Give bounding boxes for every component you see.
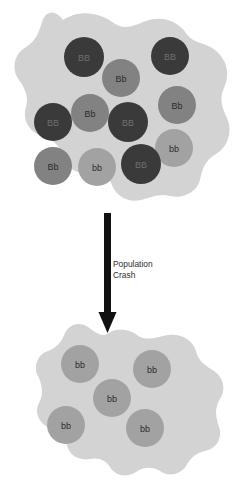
individual-circle: bb bbox=[93, 379, 131, 417]
genotype-label: Bb bbox=[115, 74, 126, 84]
diagram-canvas: BBBBBbBbBbBBBBbbBbbbBB bbbbbbbbbb bbox=[0, 0, 248, 487]
genotype-label: bb bbox=[92, 163, 102, 173]
arrow-shaft bbox=[104, 213, 111, 312]
genotype-label: BB bbox=[47, 118, 59, 128]
genotype-label: bb bbox=[75, 360, 85, 370]
population-crash-label-line: Population bbox=[113, 259, 153, 270]
individual-circle: Bb bbox=[71, 94, 109, 132]
genetic-bottleneck-diagram: BBBBBbBbBbBBBBbbBbbbBB bbbbbbbbbb Popula… bbox=[0, 0, 248, 487]
genotype-label: Bb bbox=[47, 162, 58, 172]
individual-circle: bb bbox=[47, 406, 85, 444]
individual-circle: bb bbox=[61, 345, 99, 383]
genotype-label: bb bbox=[169, 144, 179, 154]
individual-circle: BB bbox=[108, 102, 148, 142]
individual-circle: Bb bbox=[158, 86, 196, 124]
individual-circle: Bb bbox=[102, 59, 140, 97]
population-crash-label: PopulationCrash bbox=[113, 259, 153, 280]
genotype-label: Bb bbox=[84, 109, 95, 119]
individual-circle: Bb bbox=[34, 147, 72, 185]
genotype-label: Bb bbox=[171, 101, 182, 111]
individual-circle: BB bbox=[121, 144, 161, 184]
genotype-label: bb bbox=[107, 394, 117, 404]
genotype-label: bb bbox=[147, 365, 157, 375]
genotype-label: BB bbox=[164, 52, 176, 62]
individual-circle: bb bbox=[133, 350, 171, 388]
individual-circle: bb bbox=[78, 148, 116, 186]
population-before-crash-group: BBBBBbBbBbBBBBbbBbbbBB bbox=[15, 13, 230, 201]
individual-circle: bb bbox=[126, 409, 164, 447]
genotype-label: bb bbox=[61, 421, 71, 431]
genotype-label: BB bbox=[78, 53, 90, 63]
population-crash-label-line: Crash bbox=[113, 270, 153, 281]
population-after-crash-group: bbbbbbbbbb bbox=[36, 324, 223, 476]
genotype-label: bb bbox=[140, 424, 150, 434]
individual-circle: BB bbox=[64, 37, 104, 77]
individual-circle: BB bbox=[151, 37, 189, 75]
individual-circle: BB bbox=[34, 103, 72, 141]
genotype-label: BB bbox=[122, 118, 134, 128]
arrow-head bbox=[99, 312, 117, 333]
genotype-label: BB bbox=[135, 160, 147, 170]
